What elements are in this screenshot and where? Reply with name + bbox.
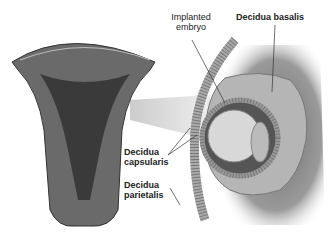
label-decidua-capsularis: Decidua capsularis (124, 147, 169, 167)
illustration (0, 0, 333, 236)
leader-embryo (192, 40, 225, 103)
label-implanted-embryo: Implanted embryo (168, 12, 214, 32)
label-decidua-parietalis: Decidua parietalis (124, 180, 164, 200)
leader-parietalis (170, 188, 180, 205)
label-decidua-basalis: Decidua basalis (236, 12, 304, 22)
embryonic-disc (251, 122, 269, 162)
implantation-diagram: Implanted embryo Decidua basalis Decidua… (0, 0, 333, 236)
